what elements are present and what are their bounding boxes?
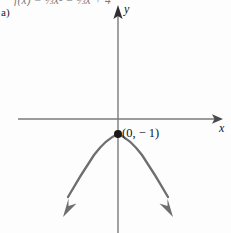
vertex-point-marker [114, 130, 122, 138]
y-axis-label: y [124, 2, 129, 17]
figure-canvas: f(x) = ⅓x² − ⅔x + 4 a) y x (0, − 1) [0, 0, 231, 233]
coordinate-plot [0, 0, 231, 233]
vertex-coordinate-label: (0, − 1) [122, 126, 159, 140]
curve-right-arrowhead [160, 199, 174, 218]
x-axis-label: x [219, 121, 224, 136]
curve-left-arrowhead [63, 199, 77, 218]
